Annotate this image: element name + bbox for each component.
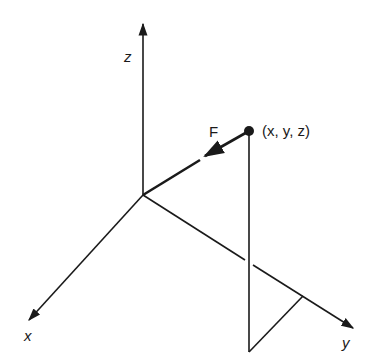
y-axis-label: y bbox=[342, 335, 350, 350]
x-axis bbox=[29, 195, 143, 320]
z-axis-label: z bbox=[124, 49, 132, 64]
force-label: F bbox=[209, 124, 218, 139]
y-axis-segment-1 bbox=[143, 195, 245, 260]
diagram-canvas: z x y (x, y, z) F bbox=[0, 0, 375, 364]
diagram-lines bbox=[0, 0, 375, 364]
point-marker bbox=[244, 126, 254, 136]
projection-to-y-axis bbox=[249, 296, 303, 352]
point-label: (x, y, z) bbox=[262, 123, 310, 138]
force-line-lower bbox=[143, 160, 200, 195]
x-axis-label: x bbox=[24, 328, 32, 343]
